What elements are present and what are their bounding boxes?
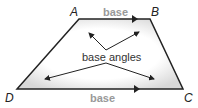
bottom-base-label: base	[90, 92, 115, 104]
vertex-c-label: C	[184, 91, 193, 105]
vertex-a-label: A	[69, 5, 78, 19]
trapezoid-diagram: A B C D base base base angles	[0, 0, 198, 108]
base-angles-label: base angles	[82, 51, 142, 63]
vertex-d-label: D	[5, 91, 14, 105]
vertex-b-label: B	[151, 5, 159, 19]
top-base-label: base	[103, 6, 128, 18]
